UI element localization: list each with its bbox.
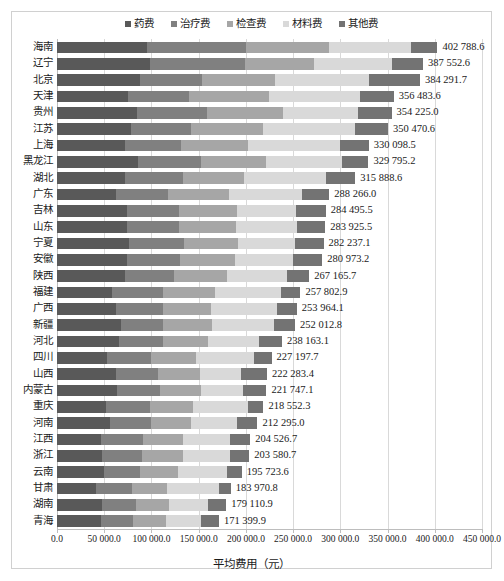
bar-segment-治疗费[interactable] <box>119 336 162 348</box>
bar-segment-检查费[interactable] <box>245 58 314 70</box>
bar-segment-治疗费[interactable] <box>125 172 183 184</box>
bar-segment-药费[interactable] <box>57 107 137 119</box>
bar-segment-材料费[interactable] <box>314 58 392 70</box>
bar-segment-药费[interactable] <box>57 238 129 250</box>
bar-segment-药费[interactable] <box>57 254 127 266</box>
bar-row[interactable]: 江苏350 470.6 <box>57 121 482 137</box>
bar-segment-其他费[interactable] <box>201 515 219 527</box>
bar-segment-检查费[interactable] <box>163 287 215 299</box>
stacked-bar[interactable] <box>57 401 263 413</box>
bar-segment-治疗费[interactable] <box>102 499 136 511</box>
stacked-bar[interactable] <box>57 221 325 233</box>
stacked-bar[interactable] <box>57 156 368 168</box>
bar-segment-其他费[interactable] <box>293 254 322 266</box>
stacked-bar[interactable] <box>57 42 437 54</box>
bar-segment-其他费[interactable] <box>281 287 301 299</box>
stacked-bar[interactable] <box>57 515 219 527</box>
bar-segment-其他费[interactable] <box>411 42 437 54</box>
bar-segment-治疗费[interactable] <box>125 270 174 282</box>
bar-segment-其他费[interactable] <box>243 385 267 397</box>
bar-segment-检查费[interactable] <box>179 205 238 217</box>
bar-segment-其他费[interactable] <box>295 238 323 250</box>
bar-segment-检查费[interactable] <box>181 140 248 152</box>
bar-segment-药费[interactable] <box>57 303 116 315</box>
bar-segment-药费[interactable] <box>57 368 116 380</box>
bar-row[interactable]: 湖北315 888.6 <box>57 170 482 186</box>
stacked-bar[interactable] <box>57 123 388 135</box>
stacked-bar[interactable] <box>57 352 272 364</box>
bar-row[interactable]: 内蒙古221 747.1 <box>57 382 482 398</box>
bar-segment-治疗费[interactable] <box>101 515 133 527</box>
stacked-bar[interactable] <box>57 483 231 495</box>
bar-row[interactable]: 湖南179 110.9 <box>57 496 482 512</box>
bar-segment-其他费[interactable] <box>237 417 258 429</box>
bar-row[interactable]: 上海330 098.5 <box>57 137 482 153</box>
stacked-bar[interactable] <box>57 270 309 282</box>
bar-segment-治疗费[interactable] <box>131 123 191 135</box>
stacked-bar[interactable] <box>57 466 242 478</box>
bar-segment-治疗费[interactable] <box>104 466 140 478</box>
bar-segment-检查费[interactable] <box>140 466 178 478</box>
bar-segment-药费[interactable] <box>57 417 110 429</box>
bar-segment-其他费[interactable] <box>277 303 297 315</box>
bar-segment-检查费[interactable] <box>132 483 168 495</box>
bar-segment-材料费[interactable] <box>238 238 295 250</box>
bar-segment-检查费[interactable] <box>163 319 212 331</box>
stacked-bar[interactable] <box>57 238 324 250</box>
bar-segment-检查费[interactable] <box>201 156 266 168</box>
bar-segment-治疗费[interactable] <box>121 319 163 331</box>
bar-row[interactable]: 陕西267 165.7 <box>57 268 482 284</box>
bar-segment-检查费[interactable] <box>179 221 237 233</box>
bar-segment-检查费[interactable] <box>202 74 275 86</box>
bar-row[interactable]: 海南402 788.6 <box>57 39 482 55</box>
bar-segment-材料费[interactable] <box>201 385 242 397</box>
bar-row[interactable]: 黑龙江329 795.2 <box>57 153 482 169</box>
bar-row[interactable]: 甘肃183 970.8 <box>57 480 482 496</box>
bar-row[interactable]: 新疆252 012.8 <box>57 317 482 333</box>
bar-segment-材料费[interactable] <box>183 434 231 446</box>
bar-row[interactable]: 山西222 283.4 <box>57 366 482 382</box>
bar-segment-药费[interactable] <box>57 483 96 495</box>
stacked-bar[interactable] <box>57 205 326 217</box>
bar-row[interactable]: 江西204 526.7 <box>57 431 482 447</box>
bar-segment-材料费[interactable] <box>229 189 302 201</box>
bar-segment-其他费[interactable] <box>369 74 420 86</box>
bar-row[interactable]: 北京384 291.7 <box>57 72 482 88</box>
bar-segment-检查费[interactable] <box>133 515 165 527</box>
bar-segment-药费[interactable] <box>57 156 138 168</box>
bar-segment-药费[interactable] <box>57 499 102 511</box>
bar-row[interactable]: 青海171 399.9 <box>57 513 482 529</box>
bar-segment-材料费[interactable] <box>212 319 274 331</box>
bar-segment-治疗费[interactable] <box>116 303 163 315</box>
bar-segment-药费[interactable] <box>57 352 107 364</box>
bar-segment-材料费[interactable] <box>178 466 227 478</box>
bar-segment-其他费[interactable] <box>274 319 295 331</box>
legend-item-2[interactable]: 治疗费 <box>171 19 210 30</box>
bar-segment-其他费[interactable] <box>254 352 272 364</box>
bar-segment-其他费[interactable] <box>302 189 329 201</box>
bar-segment-材料费[interactable] <box>196 352 254 364</box>
bar-row[interactable]: 辽宁387 552.6 <box>57 55 482 71</box>
bar-segment-治疗费[interactable] <box>125 140 181 152</box>
bar-segment-检查费[interactable] <box>180 254 236 266</box>
bar-segment-药费[interactable] <box>57 466 104 478</box>
bar-segment-材料费[interactable] <box>191 417 237 429</box>
legend-item-4[interactable]: 材料费 <box>283 19 322 30</box>
bar-segment-治疗费[interactable] <box>117 385 160 397</box>
bar-segment-检查费[interactable] <box>142 450 183 462</box>
bar-segment-药费[interactable] <box>57 58 150 70</box>
bar-segment-药费[interactable] <box>57 515 101 527</box>
bar-segment-其他费[interactable] <box>392 58 423 70</box>
stacked-bar[interactable] <box>57 74 420 86</box>
bar-segment-检查费[interactable] <box>184 238 239 250</box>
bar-segment-材料费[interactable] <box>329 42 411 54</box>
bar-segment-药费[interactable] <box>57 91 128 103</box>
bar-segment-治疗费[interactable] <box>107 352 151 364</box>
bar-segment-治疗费[interactable] <box>127 254 180 266</box>
stacked-bar[interactable] <box>57 319 295 331</box>
bar-segment-治疗费[interactable] <box>112 287 163 299</box>
bar-segment-治疗费[interactable] <box>129 238 184 250</box>
stacked-bar[interactable] <box>57 385 266 397</box>
bar-segment-治疗费[interactable] <box>116 189 169 201</box>
stacked-bar[interactable] <box>57 254 322 266</box>
